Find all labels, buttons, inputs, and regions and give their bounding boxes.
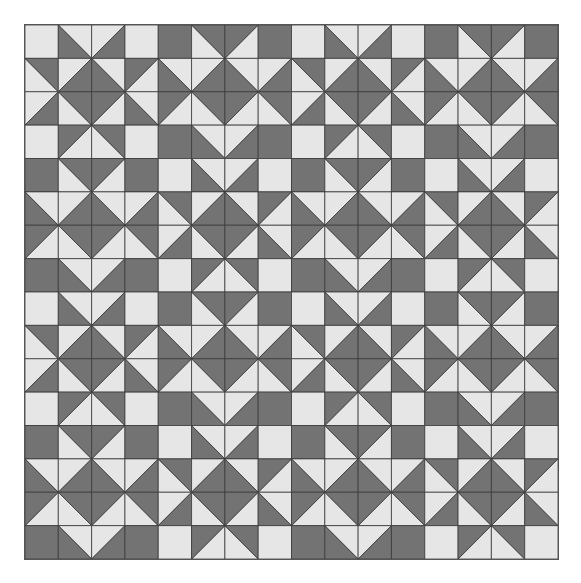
quilt-square [25, 292, 58, 325]
quilt-square [158, 25, 191, 58]
quilt-pattern [24, 24, 559, 560]
quilt-square [258, 25, 291, 58]
quilt-square [425, 159, 458, 192]
quilt-square [525, 526, 558, 559]
quilt-square [391, 392, 424, 425]
quilt-square [125, 159, 158, 192]
quilt-square [525, 125, 558, 158]
quilt-square [425, 526, 458, 559]
quilt-square [125, 292, 158, 325]
quilt-square [158, 159, 191, 192]
quilt-square [292, 259, 325, 292]
quilt-square [292, 526, 325, 559]
quilt-square [258, 259, 291, 292]
quilt-grid [25, 25, 558, 559]
quilt-square [292, 392, 325, 425]
quilt-square [158, 526, 191, 559]
quilt-square [525, 392, 558, 425]
quilt-square [25, 526, 58, 559]
quilt-square [158, 292, 191, 325]
quilt-square [125, 125, 158, 158]
quilt-square [258, 392, 291, 425]
quilt-square [525, 292, 558, 325]
quilt-square [292, 25, 325, 58]
quilt-square [292, 426, 325, 459]
quilt-square [525, 426, 558, 459]
quilt-square [125, 426, 158, 459]
quilt-square [125, 392, 158, 425]
quilt-square [425, 259, 458, 292]
quilt-square [391, 25, 424, 58]
quilt-square [525, 259, 558, 292]
quilt-square [391, 426, 424, 459]
quilt-square [292, 292, 325, 325]
quilt-square [25, 159, 58, 192]
quilt-square [158, 426, 191, 459]
quilt-square [258, 426, 291, 459]
quilt-square [25, 25, 58, 58]
quilt-square [391, 259, 424, 292]
quilt-square [258, 292, 291, 325]
quilt-square [125, 259, 158, 292]
quilt-square [425, 426, 458, 459]
quilt-square [258, 159, 291, 192]
quilt-square [25, 426, 58, 459]
quilt-square [158, 392, 191, 425]
quilt-square [25, 259, 58, 292]
quilt-square [525, 25, 558, 58]
quilt-square [158, 125, 191, 158]
quilt-square [425, 125, 458, 158]
quilt-square [125, 526, 158, 559]
quilt-square [391, 292, 424, 325]
quilt-square [25, 125, 58, 158]
quilt-square [391, 159, 424, 192]
quilt-square [25, 392, 58, 425]
quilt-square [391, 526, 424, 559]
quilt-square [391, 125, 424, 158]
quilt-square [258, 526, 291, 559]
quilt-square [425, 292, 458, 325]
quilt-square [292, 125, 325, 158]
quilt-square [292, 159, 325, 192]
quilt-square [158, 259, 191, 292]
quilt-square [525, 159, 558, 192]
quilt-square [125, 25, 158, 58]
quilt-square [425, 392, 458, 425]
quilt-square [425, 25, 458, 58]
quilt-square [258, 125, 291, 158]
